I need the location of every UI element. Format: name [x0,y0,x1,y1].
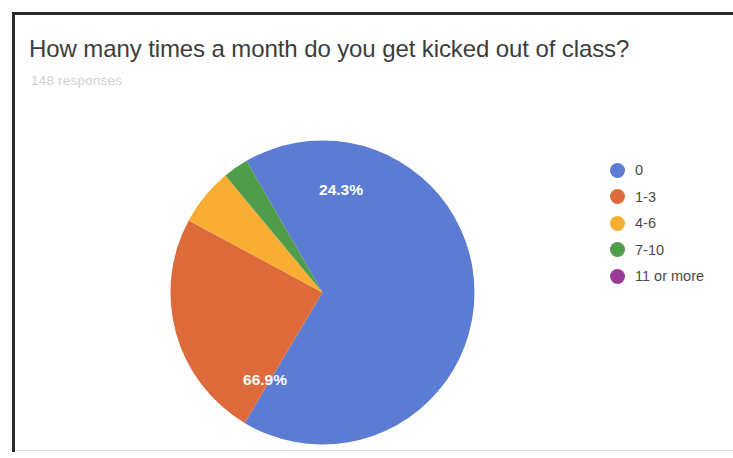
legend-item-1-3[interactable]: 1-3 [595,184,733,211]
survey-result-card: How many times a month do you get kicked… [15,15,733,450]
chart-legend: 0 1-3 4-6 7-10 11 or more [595,157,733,290]
chart-title: How many times a month do you get kicked… [29,35,719,63]
pie-chart: 66.9% 24.3% [170,140,475,445]
legend-item-label: 11 or more [635,268,704,284]
legend-color-swatch-icon [610,189,625,204]
pie-slice-label-orange: 24.3% [319,181,363,198]
pie-chart-svg: 66.9% 24.3% [170,140,475,445]
legend-item-4-6[interactable]: 4-6 [595,210,733,237]
legend-item-11-or-more[interactable]: 11 or more [595,263,733,290]
legend-item-7-10[interactable]: 7-10 [595,237,733,264]
legend-item-label: 0 [635,162,643,178]
legend-color-swatch-icon [610,216,625,231]
screenshot-root: How many times a month do you get kicked… [0,0,733,458]
response-count: 148 responses [31,73,122,88]
pie-slice-label-blue: 66.9% [243,371,287,388]
page-frame-bottom-edge [15,450,733,451]
legend-item-label: 1-3 [635,189,656,205]
legend-item-label: 7-10 [635,242,664,258]
legend-color-swatch-icon [610,163,625,178]
legend-item-0[interactable]: 0 [595,157,733,184]
legend-color-swatch-icon [610,242,625,257]
legend-color-swatch-icon [610,269,625,284]
legend-item-label: 4-6 [635,215,656,231]
